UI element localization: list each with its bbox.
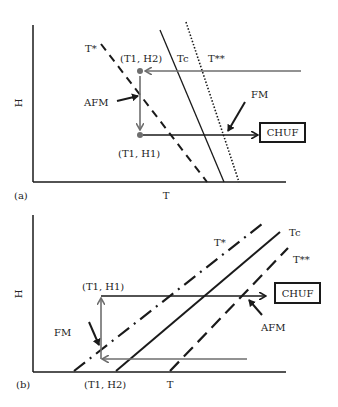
panel-a-x-axis-label: T <box>163 190 170 201</box>
panel-a-tag: (a) <box>14 190 28 201</box>
panel-b-point-upper-label: (T1, H1) <box>82 281 124 292</box>
panel-a-y-axis-label: H <box>13 98 24 107</box>
panel-b-point-lower-label: (T1, H2) <box>84 379 126 390</box>
panel-b-afm-pointer <box>249 300 262 315</box>
panel-a-point-upper-label: (T1, H2) <box>120 53 162 64</box>
panel-a-point-lower <box>137 132 143 138</box>
panel-b-t-double-star-label: T** <box>293 254 310 265</box>
panel-b-tc-line <box>116 232 280 371</box>
diagram-canvas: CHUF T* Tc T** (T1, H2) (T1, H1) AFM FM … <box>0 0 338 407</box>
panel-a-chuf-label: CHUF <box>267 127 299 138</box>
panel-a-afm-label: AFM <box>83 97 108 108</box>
panel-a-t-star-line <box>101 44 207 182</box>
panel-a-fm-pointer <box>228 102 245 131</box>
panel-a-tc-label: Tc <box>177 53 189 64</box>
panel-a-point-upper <box>137 68 143 74</box>
panel-b: CHUF T* Tc T** (T1, H1) (T1, H2) AFM FM … <box>13 215 320 390</box>
panel-b-fm-pointer <box>89 322 99 345</box>
panel-a: CHUF T* Tc T** (T1, H2) (T1, H1) AFM FM … <box>13 22 305 201</box>
panel-a-t-star-label: T* <box>85 43 97 54</box>
panel-a-point-lower-label: (T1, H1) <box>118 148 160 159</box>
panel-a-t-double-star-line <box>186 22 239 182</box>
panel-b-chuf-label: CHUF <box>282 288 314 299</box>
panel-b-tag: (b) <box>16 379 30 390</box>
panel-b-afm-label: AFM <box>260 322 285 333</box>
panel-b-fm-label: FM <box>54 327 71 338</box>
panel-a-afm-pointer <box>117 96 138 101</box>
panel-b-t-star-label: T* <box>214 237 226 248</box>
panel-b-t-star-line <box>74 224 262 371</box>
panel-b-y-axis-label: H <box>13 289 24 298</box>
panel-b-x-axis-label: T <box>167 379 174 390</box>
panel-a-t-double-star-label: T** <box>208 53 225 64</box>
panel-b-tc-label: Tc <box>289 227 301 238</box>
panel-a-fm-label: FM <box>251 89 268 100</box>
